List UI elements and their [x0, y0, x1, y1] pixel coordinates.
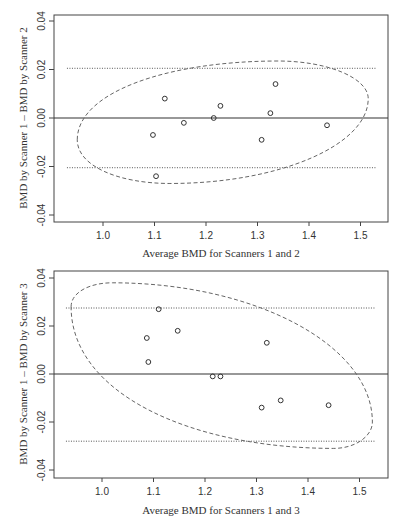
- data-point: [146, 360, 151, 365]
- data-point: [162, 96, 167, 101]
- x-tick-label: 1.2: [199, 230, 213, 241]
- data-points: [144, 307, 331, 410]
- data-point: [259, 405, 264, 410]
- x-tick-label: 1.3: [250, 486, 264, 497]
- y-tick-label: -0.04: [36, 458, 47, 481]
- x-tick-label: 1.1: [148, 230, 162, 241]
- confidence-ellipse: [77, 61, 368, 183]
- y-axis: -0.04-0.020.000.020.04: [36, 268, 54, 482]
- data-points: [151, 82, 330, 179]
- chart-canvas: -0.04-0.020.000.020.04 1.01.11.21.31.41.…: [0, 0, 405, 264]
- y-tick-label: 0.00: [36, 364, 47, 384]
- data-point: [278, 398, 283, 403]
- y-tick-label: -0.02: [36, 155, 47, 178]
- x-tick-label: 1.4: [301, 486, 315, 497]
- data-point: [144, 336, 149, 341]
- y-tick-label: 0.02: [36, 59, 47, 79]
- y-tick-label: 0.04: [36, 268, 47, 288]
- data-point: [325, 123, 330, 128]
- x-tick-label: 1.2: [198, 486, 212, 497]
- data-point: [154, 174, 159, 179]
- x-tick-label: 1.5: [353, 486, 367, 497]
- y-axis: -0.04-0.020.000.020.04: [36, 11, 54, 227]
- data-point: [151, 133, 156, 138]
- data-point: [210, 374, 215, 379]
- data-point: [273, 82, 278, 87]
- y-tick-label: -0.04: [36, 203, 47, 226]
- data-point: [218, 374, 223, 379]
- y-tick-label: 0.00: [36, 108, 47, 128]
- reference-lines: [54, 308, 388, 441]
- ellipse-path: [77, 61, 368, 183]
- chart-canvas: -0.04-0.020.000.020.04 1.01.11.21.31.41.…: [0, 264, 405, 529]
- x-axis-label: Average BMD for Scanners 1 and 2: [142, 247, 299, 259]
- y-tick-label: -0.02: [36, 410, 47, 433]
- y-tick-label: 0.04: [36, 11, 47, 31]
- y-axis-label: BMD by Scanner 1 – BMD by Scanner 2: [17, 27, 29, 208]
- x-tick-label: 1.4: [302, 230, 316, 241]
- x-axis: 1.01.11.21.31.41.5: [95, 478, 367, 497]
- data-point: [259, 137, 264, 142]
- x-tick-label: 1.3: [251, 230, 265, 241]
- x-axis-label: Average BMD for Scanners 1 and 3: [142, 504, 300, 516]
- bland-altman-chart-scanners-1-3: -0.04-0.020.000.020.04 1.01.11.21.31.41.…: [0, 264, 405, 529]
- data-point: [268, 111, 273, 116]
- data-point: [218, 103, 223, 108]
- y-axis-label: BMD by Scanner 1 – BMD by Scanner 3: [17, 283, 29, 465]
- x-tick-label: 1.0: [95, 486, 109, 497]
- x-tick-label: 1.1: [147, 486, 161, 497]
- x-tick-label: 1.0: [96, 230, 110, 241]
- x-tick-label: 1.5: [354, 230, 368, 241]
- data-point: [175, 328, 180, 333]
- data-point: [264, 340, 269, 345]
- data-point: [326, 403, 331, 408]
- reference-lines: [54, 68, 388, 167]
- x-axis: 1.01.11.21.31.41.5: [96, 222, 368, 241]
- data-point: [181, 120, 186, 125]
- y-tick-label: 0.02: [36, 316, 47, 336]
- bland-altman-chart-scanners-1-2: -0.04-0.020.000.020.04 1.01.11.21.31.41.…: [0, 0, 405, 264]
